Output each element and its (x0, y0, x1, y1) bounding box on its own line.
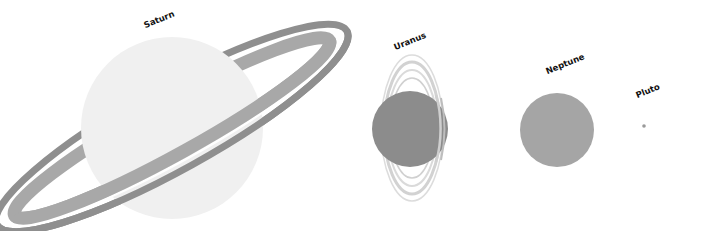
pluto-body (642, 124, 646, 128)
planets-illustration (0, 0, 703, 231)
neptune-body (520, 93, 594, 167)
planet-diagram: Saturn Uranus Neptune Pluto (0, 0, 703, 231)
